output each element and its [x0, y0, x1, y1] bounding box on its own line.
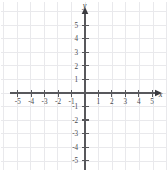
y-tick-label: 3 — [75, 49, 79, 57]
y-axis-label: y — [82, 1, 87, 10]
x-tick-label: 1 — [97, 98, 101, 106]
y-tick-label: -4 — [72, 144, 78, 152]
y-tick-label: 2 — [75, 63, 79, 71]
x-axis-label: x — [158, 90, 163, 99]
y-tick-label: 4 — [75, 35, 79, 43]
x-tick-label: -3 — [42, 98, 48, 106]
x-tick-label: -4 — [28, 98, 34, 106]
x-tick-label: -2 — [55, 98, 61, 106]
coordinate-plane-figure: -5 -4 -3 -2 -1 1 2 3 4 5 5 4 3 2 1 -1 -2… — [0, 0, 168, 174]
grid-lines-horizontal — [1, 11, 167, 161]
y-axis — [82, 7, 89, 170]
y-axis-tick-labels: 5 4 3 2 1 -1 -2 -3 -4 -5 — [72, 22, 78, 165]
x-tick-label: 3 — [124, 98, 128, 106]
y-tick-label: -5 — [72, 157, 78, 165]
y-tick-label: 1 — [75, 76, 79, 84]
y-tick-label: -3 — [72, 130, 78, 138]
y-tick-label: -2 — [72, 117, 78, 125]
x-tick-label: 5 — [150, 98, 154, 106]
y-tick-label: -1 — [72, 103, 78, 111]
y-tick-label: 5 — [75, 22, 79, 30]
x-tick-label: -5 — [15, 98, 21, 106]
x-tick-label: 2 — [110, 98, 114, 106]
coordinate-plane-svg: -5 -4 -3 -2 -1 1 2 3 4 5 5 4 3 2 1 -1 -2… — [0, 0, 168, 174]
x-tick-label: 4 — [137, 98, 141, 106]
